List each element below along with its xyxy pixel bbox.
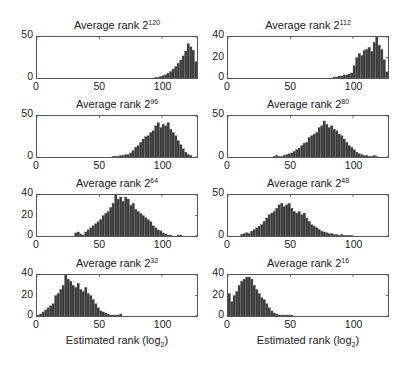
title-exponent: 80 [341, 98, 349, 105]
x-axis-label-text: Estimated rank (log [257, 334, 352, 346]
panel-title: Average rank 2112 [227, 19, 389, 31]
plot-area [36, 274, 198, 317]
histogram-bars [228, 37, 388, 78]
title-text: Average rank 2 [265, 19, 339, 31]
x-axis-label-text: Estimated rank (log [66, 334, 161, 346]
plot-area [227, 36, 389, 79]
title-text: Average rank 2 [267, 98, 341, 110]
x-tick-label: 50 [84, 80, 114, 92]
title-text: Average rank 2 [74, 19, 148, 31]
y-tick-label: 40 [11, 186, 33, 198]
title-text: Average rank 2 [76, 257, 150, 269]
x-axis-label-end: ) [356, 334, 360, 346]
histogram-bars [228, 116, 388, 157]
x-tick-label: 50 [84, 238, 114, 250]
title-exponent: 96 [150, 98, 158, 105]
title-exponent: 16 [341, 257, 349, 264]
x-tick-label: 0 [212, 238, 242, 250]
x-tick-label: 0 [212, 80, 242, 92]
title-exponent: 112 [340, 19, 351, 26]
y-tick-label: 50 [11, 28, 33, 40]
title-text: Average rank 2 [267, 177, 341, 189]
y-tick-label: 20 [202, 288, 224, 300]
x-tick-label: 100 [148, 318, 178, 330]
x-tick-label: 100 [339, 159, 369, 171]
x-axis-label-end: ) [165, 334, 169, 346]
histogram-bars [37, 275, 197, 316]
histogram-bars [37, 37, 197, 78]
plot-area [227, 274, 389, 317]
title-text: Average rank 2 [267, 257, 341, 269]
panel-title: Average rank 264 [36, 177, 198, 189]
x-tick-label: 100 [339, 318, 369, 330]
x-tick-label: 50 [275, 80, 305, 92]
y-tick-label: 50 [202, 186, 224, 198]
x-tick-label: 100 [148, 238, 178, 250]
title-exponent: 120 [148, 19, 160, 26]
y-tick-label: 40 [202, 266, 224, 278]
title-exponent: 48 [341, 177, 349, 184]
title-text: Average rank 2 [76, 98, 150, 110]
title-exponent: 64 [150, 177, 158, 184]
x-tick-label: 100 [148, 159, 178, 171]
x-tick-label: 0 [21, 318, 51, 330]
histogram-bars [37, 116, 197, 157]
y-tick-label: 20 [11, 208, 33, 220]
x-axis-label: Estimated rank (log2) [37, 334, 197, 348]
x-tick-label: 0 [21, 238, 51, 250]
x-tick-label: 100 [339, 238, 369, 250]
histogram-bars [228, 275, 388, 316]
histogram-bars [228, 195, 388, 236]
panel-title: Average rank 2120 [36, 19, 198, 31]
plot-area [227, 115, 389, 158]
panel-title: Average rank 216 [227, 257, 389, 269]
panel-title: Average rank 248 [227, 177, 389, 189]
histogram-bars [37, 195, 197, 236]
x-tick-label: 0 [21, 159, 51, 171]
x-tick-label: 100 [339, 80, 369, 92]
x-tick-label: 50 [275, 318, 305, 330]
y-tick-label: 40 [11, 266, 33, 278]
plot-area [36, 194, 198, 237]
y-tick-label: 50 [202, 107, 224, 119]
x-axis-label: Estimated rank (log2) [228, 334, 388, 348]
y-tick-label: 20 [11, 288, 33, 300]
plot-area [36, 115, 198, 158]
plot-area [227, 194, 389, 237]
x-tick-label: 0 [21, 80, 51, 92]
title-text: Average rank 2 [76, 177, 150, 189]
y-tick-label: 40 [202, 28, 224, 40]
x-tick-label: 50 [84, 159, 114, 171]
x-tick-label: 50 [275, 159, 305, 171]
x-tick-label: 0 [212, 318, 242, 330]
title-exponent: 32 [150, 257, 158, 264]
x-tick-label: 0 [212, 159, 242, 171]
x-tick-label: 50 [275, 238, 305, 250]
panel-title: Average rank 232 [36, 257, 198, 269]
x-tick-label: 100 [148, 80, 178, 92]
plot-area [36, 36, 198, 79]
y-tick-label: 50 [11, 107, 33, 119]
y-tick-label: 20 [202, 50, 224, 62]
panel-title: Average rank 280 [227, 98, 389, 110]
x-tick-label: 50 [84, 318, 114, 330]
panel-title: Average rank 296 [36, 98, 198, 110]
